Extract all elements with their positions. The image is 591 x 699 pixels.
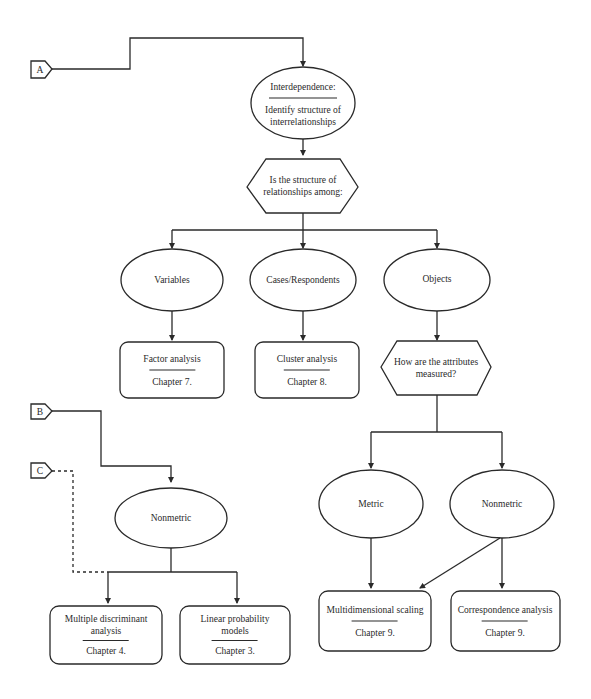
divider bbox=[352, 621, 398, 622]
cluster-analysis-label: Cluster analysis Chapter 8. bbox=[277, 353, 337, 388]
lpm-title-line2: models bbox=[201, 625, 270, 637]
edge-b-to-nonmetric bbox=[52, 411, 171, 482]
divider bbox=[149, 370, 195, 371]
lpm-title-line1: Linear probability bbox=[201, 613, 270, 625]
divider bbox=[212, 640, 258, 641]
question-structure-line1: Is the structure of bbox=[263, 174, 342, 186]
factor-analysis-label: Factor analysis Chapter 7. bbox=[143, 353, 200, 388]
edge-nonmetric-to-mds bbox=[420, 538, 500, 588]
cluster-analysis-title: Cluster analysis bbox=[277, 353, 337, 365]
question-structure-label: Is the structure of relationships among: bbox=[263, 174, 342, 198]
lpm-label: Linear probability models Chapter 3. bbox=[201, 613, 270, 657]
question-measured-label: How are the attributes measured? bbox=[394, 356, 478, 380]
mda-title-line2: analysis bbox=[65, 625, 148, 637]
interdependence-label: Interdependence: Identify structure of i… bbox=[265, 81, 341, 128]
correspondence-chapter: Chapter 9. bbox=[458, 627, 553, 639]
divider bbox=[83, 640, 129, 641]
divider bbox=[482, 621, 528, 622]
interdependence-subtitle-2: interrelationships bbox=[265, 116, 341, 128]
question-measured-line1: How are the attributes bbox=[394, 356, 478, 368]
connector-c-label: C bbox=[37, 465, 43, 477]
mda-label: Multiple discriminant analysis Chapter 4… bbox=[65, 613, 148, 657]
variables-label: Variables bbox=[154, 274, 189, 286]
factor-analysis-chapter: Chapter 7. bbox=[143, 376, 200, 388]
correspondence-label: Correspondence analysis Chapter 9. bbox=[458, 604, 553, 639]
interdependence-subtitle-1: Identify structure of bbox=[265, 104, 341, 116]
mds-title: Multidimensional scaling bbox=[327, 604, 424, 616]
mds-label: Multidimensional scaling Chapter 9. bbox=[327, 604, 424, 639]
factor-analysis-title: Factor analysis bbox=[143, 353, 200, 365]
divider bbox=[269, 98, 337, 99]
mds-chapter: Chapter 9. bbox=[327, 627, 424, 639]
divider bbox=[284, 370, 330, 371]
mda-chapter: Chapter 4. bbox=[65, 645, 148, 657]
interdependence-title: Interdependence: bbox=[265, 81, 341, 93]
objects-label: Objects bbox=[422, 273, 451, 285]
metric-label: Metric bbox=[358, 498, 383, 510]
edge-a-to-interdependence bbox=[52, 38, 303, 69]
mda-title-line1: Multiple discriminant bbox=[65, 613, 148, 625]
question-structure-line2: relationships among: bbox=[263, 186, 342, 198]
correspondence-title: Correspondence analysis bbox=[458, 604, 553, 616]
nonmetric-right-label: Nonmetric bbox=[482, 498, 523, 510]
connector-b-label: B bbox=[37, 406, 43, 418]
lpm-chapter: Chapter 3. bbox=[201, 645, 270, 657]
edge-c-dashed bbox=[52, 471, 108, 572]
nonmetric-left-label: Nonmetric bbox=[151, 512, 192, 524]
connector-a-label: A bbox=[37, 64, 44, 76]
cases-label: Cases/Respondents bbox=[266, 274, 339, 286]
question-measured-line2: measured? bbox=[394, 368, 478, 380]
cluster-analysis-chapter: Chapter 8. bbox=[277, 376, 337, 388]
